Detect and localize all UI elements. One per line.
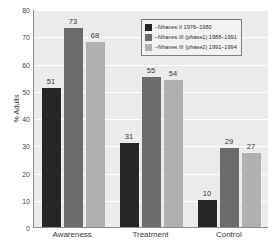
bar-value-label: 55 [147,66,155,75]
bar-value-label: 27 [247,142,255,151]
y-axis-tick-labels: 80706050403020100 [8,10,30,228]
y-axis-tick-label: 0 [8,225,30,232]
y-axis-tick-label: 20 [8,170,30,177]
bar-value-label: 10 [203,189,211,198]
legend-swatch-icon [145,34,152,41]
x-axis-tick-labels: AwarenessTreatmentControl [33,230,268,239]
bar-group: 517368 [42,10,105,227]
bar-value-label: 73 [69,17,77,26]
bar-value-label: 29 [225,137,233,146]
bar-value-label: 31 [125,132,133,141]
bar-value-label: 68 [91,31,99,40]
y-axis-tick-label: 10 [8,197,30,204]
bar-chart: % Adults 80706050403020100 5173683155541… [0,0,276,249]
bar[interactable]: 10 [198,200,217,227]
legend-swatch-icon [145,44,152,51]
bar[interactable]: 31 [120,143,139,227]
bar[interactable]: 73 [64,28,83,227]
y-axis-tick-label: 70 [8,34,30,41]
legend-item[interactable]: –Nhanes II 1976–1980 [145,23,237,32]
y-axis-tick-label: 50 [8,88,30,95]
legend: –Nhanes II 1976–1980–Nhanes III (phase1)… [141,19,242,56]
x-axis-tick-label: Treatment [111,230,189,239]
y-axis-tick-label: 80 [8,7,30,14]
bar[interactable]: 29 [220,148,239,227]
y-axis-tick-label: 30 [8,143,30,150]
bar-value-label: 51 [47,77,55,86]
bar[interactable]: 51 [42,88,61,227]
bar[interactable]: 55 [142,77,161,227]
legend-item[interactable]: –Nhanes III (phase2) 1991–1994 [145,43,237,52]
bar[interactable]: 54 [164,80,183,227]
bar[interactable]: 68 [86,42,105,227]
legend-item-label: –Nhanes III (phase2) 1991–1994 [155,45,237,51]
legend-swatch-icon [145,24,152,31]
legend-item[interactable]: –Nhanes III (phase1) 1988–1991 [145,33,237,42]
bar[interactable]: 27 [242,153,261,227]
x-axis-tick-label: Awareness [33,230,111,239]
y-axis-tick-label: 60 [8,61,30,68]
y-axis-tick-label: 40 [8,116,30,123]
bar-value-label: 54 [169,69,177,78]
legend-item-label: –Nhanes II 1976–1980 [155,25,212,31]
x-axis-tick-label: Control [190,230,268,239]
legend-item-label: –Nhanes III (phase1) 1988–1991 [155,35,237,41]
